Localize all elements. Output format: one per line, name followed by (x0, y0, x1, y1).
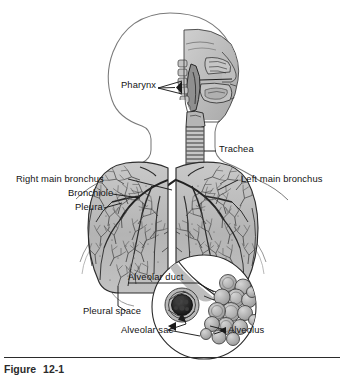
figure-artwork (0, 0, 344, 377)
label-alveolar-duct: Alveolar duct (128, 272, 184, 281)
respiratory-system-figure: Pharynx Trachea Right main bronchus Left… (0, 0, 344, 377)
caption-label: Figure (4, 363, 36, 375)
label-pharynx: Pharynx (121, 80, 156, 89)
label-trachea: Trachea (219, 144, 254, 153)
figure-caption: Figure12-1 (4, 363, 64, 375)
label-left-main-bronchus: Left main bronchus (241, 174, 323, 183)
label-right-main-bronchus: Right main bronchus (16, 174, 104, 183)
label-alveolar-sac: Alveolar sac (121, 325, 173, 334)
label-pleura: Pleura (75, 202, 103, 211)
label-bronchiole: Bronchiole (68, 188, 113, 197)
caption-divider (4, 357, 340, 358)
label-alveolus: Alveolus (228, 325, 264, 334)
caption-number: 12-1 (43, 363, 64, 375)
label-pleural-space: Pleural space (83, 306, 141, 315)
